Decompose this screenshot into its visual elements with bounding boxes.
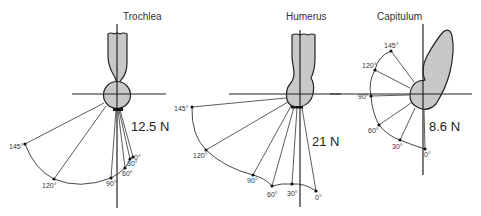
capitulum-angle-145: 145°	[384, 42, 399, 49]
humerus-angle-30: 30°	[287, 190, 298, 197]
trochlea-angle-90: 90°	[106, 180, 117, 187]
trochlea-angle-60: 60°	[122, 170, 133, 177]
humerus-panel: Humerus 0° 30° 60° 90° 120° 145° 2	[174, 11, 341, 207]
trochlea-angle-145: 145°	[9, 143, 24, 150]
humerus-force-label: 21 N	[312, 134, 339, 149]
humerus-title: Humerus	[286, 11, 327, 22]
capitulum-angle-120: 120°	[362, 62, 377, 69]
capitulum-angle-90: 90°	[358, 93, 369, 100]
capitulum-force-label: 8.6 N	[429, 119, 460, 134]
capitulum-bone	[410, 30, 453, 109]
capitulum-panel: Capitulum 0° 30° 60° 90° 120° 145° 8.6 N	[330, 11, 472, 175]
trochlea-angle-30: 30°	[127, 160, 138, 167]
humerus-angle-60: 60°	[267, 191, 278, 198]
humerus-angle-145: 145°	[174, 105, 189, 112]
humerus-bone	[286, 34, 315, 107]
elbow-force-diagram: Trochlea 0° 30°	[0, 0, 481, 216]
trochlea-title: Trochlea	[123, 11, 162, 22]
capitulum-title: Capitulum	[377, 11, 422, 22]
humerus-angle-120: 120°	[193, 152, 208, 159]
trochlea-force-label: 12.5 N	[131, 119, 169, 134]
trochlea-panel: Trochlea 0° 30°	[9, 11, 169, 208]
capitulum-angle-0: 0°	[424, 151, 431, 158]
trochlea-points	[23, 142, 134, 180]
capitulum-angle-60: 60°	[368, 127, 379, 134]
trochlea-angle-120: 120°	[42, 182, 57, 189]
humerus-angle-90: 90°	[247, 177, 258, 184]
humerus-angle-0: 0°	[315, 194, 322, 201]
capitulum-angle-30: 30°	[392, 143, 403, 150]
